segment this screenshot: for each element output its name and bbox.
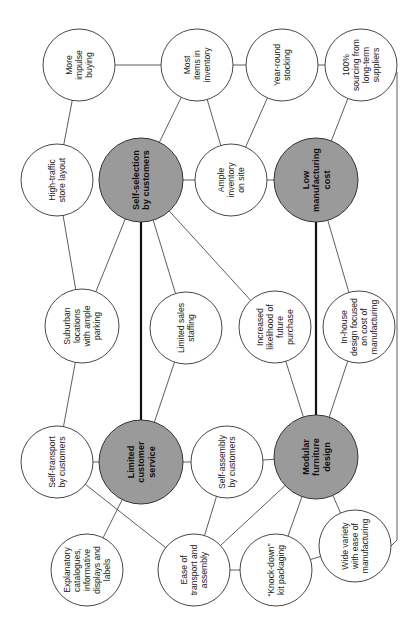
node-self-selection: Self-selectionby customers	[99, 138, 183, 222]
label-line: by customers	[57, 436, 67, 487]
label-line: store layout	[57, 157, 67, 202]
node-label: Self-assemblyby customers	[217, 434, 237, 489]
node-inhouse: In-housedesign focusedon cost ofmanufact…	[323, 291, 395, 363]
label-line: manufacturing	[311, 148, 321, 212]
label-line: future	[275, 316, 285, 338]
edge-impulse-high_traffic	[64, 100, 72, 144]
node-future: Increasedlikelihood offuturepurchase	[239, 291, 311, 363]
node-ease: Ease oftransport andassembly	[158, 534, 230, 606]
label-line: Ample	[216, 168, 226, 193]
label-line: More	[64, 55, 74, 75]
label-line: design focused	[349, 298, 359, 356]
label-line: buying	[84, 52, 94, 78]
node-sales-staff: Limited salesstaffing	[150, 292, 222, 364]
label-line: stocking	[282, 49, 292, 81]
edge-self_selection-future	[169, 211, 250, 300]
label-line: inventory	[202, 47, 212, 83]
edge-year_round-ample	[246, 98, 268, 147]
label-line: Year-round	[272, 44, 282, 86]
label-line: on cost of	[359, 308, 369, 346]
edge-self_selection-suburban	[96, 219, 125, 292]
edge-limited_service-catalogues	[103, 500, 122, 538]
node-ample: Ampleinventoryon site	[195, 144, 267, 216]
label-line: Self-assembly	[217, 434, 227, 489]
edge-knockdown-wide_variety	[310, 556, 320, 559]
node-year-round: Year-roundstocking	[246, 29, 318, 101]
node-sourcing: 100%sourcing fromlong-termsuppliers	[325, 29, 397, 101]
label-line: suppliers	[371, 48, 381, 82]
label-line: long-term	[361, 47, 371, 83]
label-line: Self-selection	[131, 150, 141, 210]
node-modular: Modularfurnituredesign	[274, 415, 358, 499]
node-label: Self-selectionby customers	[131, 150, 152, 210]
node-label: Increasedlikelihood offuturepurchase	[255, 304, 294, 350]
nodes-layer: MoreimpulsebuyingMostitems ininventoryYe…	[21, 29, 397, 606]
label-line: staffing	[186, 314, 196, 342]
label-line: by customers	[227, 436, 237, 487]
label-line: transport and	[189, 544, 199, 595]
node-self-transport: Self-transportby customers	[21, 426, 93, 498]
label-line: 100%	[341, 54, 351, 76]
node-label: “Knock-down”kit packaging	[266, 543, 286, 596]
node-label: Year-roundstocking	[272, 44, 292, 86]
edge-inhouse-modular	[329, 361, 348, 417]
node-self-assembly: Self-assemblyby customers	[191, 426, 263, 498]
node-high-traffic: High-trafficstore layout	[21, 144, 93, 216]
label-line: locations	[72, 309, 82, 343]
edge-high_traffic-suburban	[63, 215, 76, 289]
label-line: furniture	[311, 438, 321, 476]
label-line: design	[322, 442, 332, 472]
label-line: Limited sales	[176, 303, 186, 353]
label-line: likelihood of	[265, 304, 275, 350]
node-suburban: Suburbanlocationswith ampleparking	[45, 289, 119, 363]
node-most-items: Mostitems ininventory	[161, 29, 233, 101]
node-catalogues: Explanatorycatalogues,informativedisplay…	[51, 534, 123, 606]
label-line: In-house	[339, 310, 349, 344]
label-line: labels	[102, 559, 112, 581]
edge-self_assembly-modular	[263, 459, 274, 460]
label-line: Limited	[126, 446, 136, 479]
node-label: High-trafficstore layout	[47, 157, 67, 202]
label-line: Ease of	[179, 555, 189, 585]
node-knockdown: “Knock-down”kit packaging	[240, 534, 312, 606]
label-line: assembly	[199, 551, 209, 588]
label-line: Self-transport	[47, 436, 57, 488]
label-line: catalogues,	[72, 548, 82, 592]
label-line: sourcing from	[351, 39, 361, 91]
edge-modular-wide_variety	[333, 495, 341, 513]
label-line: Increased	[255, 308, 265, 346]
label-line: kit packaging	[276, 545, 286, 595]
node-wide-variety: Wide varietywith ease ofmanufacturing	[319, 510, 391, 582]
node-label: Limitedcustomerservice	[126, 441, 157, 483]
edge-self_assembly-ease	[205, 496, 217, 535]
node-label: Wide varietywith ease ofmanufacturing	[340, 519, 370, 574]
label-line: Wide variety	[340, 522, 350, 570]
label-line: customer	[136, 441, 146, 483]
node-impulse: Moreimpulsebuying	[43, 29, 115, 101]
label-line: cost	[322, 171, 332, 190]
label-line: with ample	[82, 305, 92, 347]
edge-sourcing-low_cost	[331, 99, 348, 141]
label-line: impulse	[74, 50, 84, 80]
label-line: on site	[236, 167, 246, 193]
label-line: informative	[82, 549, 92, 591]
edge-most_items-self_selection	[159, 97, 181, 142]
label-line: Suburban	[62, 307, 72, 344]
label-line: purchase	[285, 309, 295, 345]
label-line: manufacturing	[360, 519, 370, 574]
label-line: inventory	[226, 162, 236, 198]
edge-low_cost-inhouse	[328, 220, 349, 292]
label-line: by customers	[141, 150, 151, 210]
edge-sales_staff-limited_service	[154, 362, 174, 422]
label-line: with ease of	[350, 522, 360, 569]
label-line: Explanatory	[62, 547, 72, 593]
edge-sourcing-wide_variety	[391, 72, 397, 546]
edge-future-modular	[286, 361, 304, 417]
label-line: “Knock-down”	[266, 543, 276, 596]
edge-modular-knockdown	[288, 497, 302, 536]
edge-most_items-ample	[207, 100, 221, 146]
label-line: parking	[92, 312, 102, 340]
edge-suburban-self_transport	[64, 362, 76, 426]
activity-system-map: MoreimpulsebuyingMostitems ininventoryYe…	[0, 0, 419, 625]
label-line: Modular	[301, 439, 311, 475]
